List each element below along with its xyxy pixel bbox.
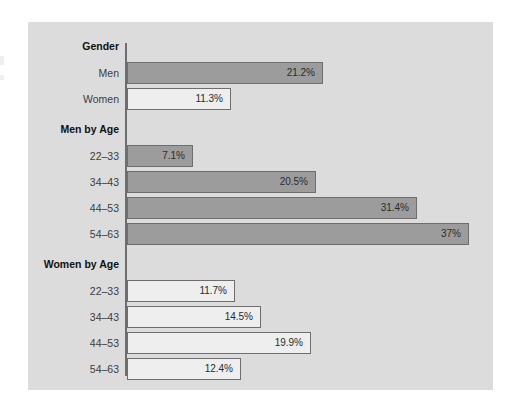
bar-container: 12.4% bbox=[127, 358, 241, 380]
chart-panel: GenderMen21.2%Women11.3%Men by Age22–337… bbox=[28, 22, 493, 390]
group-heading-label: Men by Age bbox=[0, 124, 119, 135]
bar-row: Men21.2% bbox=[28, 62, 493, 84]
category-label: 22–33 bbox=[0, 280, 119, 302]
bar-men: 7.1% bbox=[127, 145, 193, 167]
group-heading-row: Men by Age bbox=[28, 122, 493, 136]
group-heading-row: Gender bbox=[28, 39, 493, 53]
bar-value-label: 11.3% bbox=[195, 94, 230, 104]
category-label: 22–33 bbox=[0, 145, 119, 167]
category-label: 44–53 bbox=[0, 197, 119, 219]
category-label: 34–43 bbox=[0, 306, 119, 328]
bar-value-label: 37% bbox=[441, 229, 468, 239]
bar-value-label: 19.9% bbox=[275, 338, 310, 348]
bar-row: 34–4320.5% bbox=[28, 171, 493, 193]
category-label: 54–63 bbox=[0, 358, 119, 380]
bar-men: 21.2% bbox=[127, 62, 323, 84]
bar-container: 21.2% bbox=[127, 62, 323, 84]
plot-area: GenderMen21.2%Women11.3%Men by Age22–337… bbox=[28, 22, 493, 390]
bar-value-label: 31.4% bbox=[381, 203, 416, 213]
bar-value-label: 21.2% bbox=[287, 68, 322, 78]
category-label: 34–43 bbox=[0, 171, 119, 193]
category-label: Men bbox=[0, 62, 119, 84]
bar-container: 37% bbox=[127, 223, 469, 245]
category-label: 44–53 bbox=[0, 332, 119, 354]
bar-container: 7.1% bbox=[127, 145, 193, 167]
bar-value-label: 11.7% bbox=[199, 286, 234, 296]
bar-women: 12.4% bbox=[127, 358, 241, 380]
group-heading-row: Women by Age bbox=[28, 257, 493, 271]
bar-men: 20.5% bbox=[127, 171, 316, 193]
bar-container: 14.5% bbox=[127, 306, 261, 328]
bar-women: 14.5% bbox=[127, 306, 261, 328]
bar-container: 31.4% bbox=[127, 197, 417, 219]
bar-row: 44–5319.9% bbox=[28, 332, 493, 354]
bar-women: 11.7% bbox=[127, 280, 235, 302]
bar-row: 44–5331.4% bbox=[28, 197, 493, 219]
group-heading-label: Women by Age bbox=[0, 259, 119, 270]
bar-row: Women11.3% bbox=[28, 88, 493, 110]
bar-row: 22–337.1% bbox=[28, 145, 493, 167]
bar-value-label: 7.1% bbox=[162, 151, 192, 161]
bar-value-label: 12.4% bbox=[205, 364, 240, 374]
bar-row: 54–6312.4% bbox=[28, 358, 493, 380]
bar-row: 34–4314.5% bbox=[28, 306, 493, 328]
bar-men: 31.4% bbox=[127, 197, 417, 219]
bar-row: 22–3311.7% bbox=[28, 280, 493, 302]
bar-container: 11.3% bbox=[127, 88, 231, 110]
bar-value-label: 14.5% bbox=[225, 312, 260, 322]
category-label: 54–63 bbox=[0, 223, 119, 245]
bar-container: 19.9% bbox=[127, 332, 311, 354]
category-label: Women bbox=[0, 88, 119, 110]
group-heading-label: Gender bbox=[0, 41, 119, 52]
bar-men: 37% bbox=[127, 223, 469, 245]
bar-women: 11.3% bbox=[127, 88, 231, 110]
bar-container: 11.7% bbox=[127, 280, 235, 302]
bar-women: 19.9% bbox=[127, 332, 311, 354]
bar-row: 54–6337% bbox=[28, 223, 493, 245]
bar-value-label: 20.5% bbox=[280, 177, 315, 187]
bar-container: 20.5% bbox=[127, 171, 316, 193]
chart-figure: GenderMen21.2%Women11.3%Men by Age22–337… bbox=[0, 0, 515, 414]
